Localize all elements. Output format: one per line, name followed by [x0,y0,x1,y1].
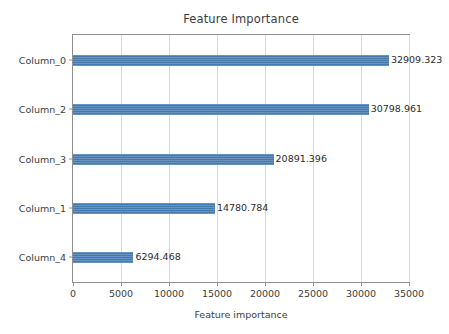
x-tick-mark [217,282,218,286]
x-tick-label: 20000 [250,288,280,299]
x-tick-label: 25000 [298,288,328,299]
x-tick-label: 30000 [346,288,376,299]
bar[interactable] [73,203,215,214]
x-tick-mark [361,282,362,286]
bar[interactable] [73,55,389,66]
bar-value-label: 6294.468 [135,250,180,264]
x-axis-title: Feature importance [72,309,410,320]
plot-area: 05000100001500020000250003000035000Colum… [72,34,410,283]
x-tick-label: 10000 [154,288,184,299]
bar-value-label: 14780.784 [217,201,268,215]
x-tick-label: 5000 [109,288,133,299]
y-tick-label: Column_1 [19,202,73,213]
bar-value-label: 30798.961 [371,102,422,116]
x-tick-mark [313,282,314,286]
gridline-vertical [361,35,362,282]
gridline-vertical [409,35,410,282]
bar[interactable] [73,252,133,263]
x-tick-mark [121,282,122,286]
x-tick-mark [73,282,74,286]
x-tick-label: 0 [70,288,76,299]
x-tick-mark [265,282,266,286]
x-tick-mark [409,282,410,286]
x-tick-label: 15000 [202,288,232,299]
chart-title: Feature Importance [72,12,410,26]
feature-importance-chart-figure: Feature Importance 050001000015000200002… [0,0,449,334]
y-tick-label: Column_4 [19,252,73,263]
bar-value-label: 20891.396 [276,152,327,166]
bar[interactable] [73,154,274,165]
x-tick-mark [169,282,170,286]
y-tick-label: Column_2 [19,104,73,115]
bar-value-label: 32909.323 [391,53,442,67]
bar[interactable] [73,104,369,115]
x-tick-label: 35000 [394,288,424,299]
y-tick-label: Column_3 [19,153,73,164]
y-tick-label: Column_0 [19,54,73,65]
